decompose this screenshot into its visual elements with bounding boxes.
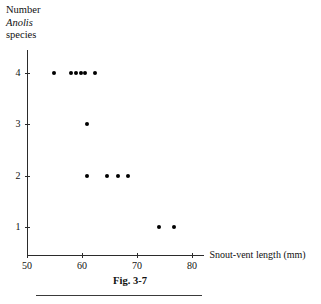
y-axis-tick xyxy=(25,176,30,177)
data-point xyxy=(93,71,97,75)
data-point xyxy=(157,225,161,229)
y-axis-tick-label: 4 xyxy=(7,68,21,78)
y-axis-tick-label: 2 xyxy=(7,171,21,181)
data-point xyxy=(69,71,73,75)
x-axis-line xyxy=(27,255,204,256)
data-point xyxy=(74,71,78,75)
y-axis-tick xyxy=(25,227,30,228)
x-axis-tick xyxy=(82,253,83,258)
data-point xyxy=(172,225,176,229)
figure-root: Number Anolis species 123450607080Snout-… xyxy=(0,0,321,304)
caption-rule xyxy=(36,295,202,296)
data-point xyxy=(52,71,56,75)
data-point xyxy=(126,174,130,178)
x-axis-tick xyxy=(137,253,138,258)
y-axis-line xyxy=(27,50,28,255)
x-axis-tick-label: 60 xyxy=(72,261,92,271)
y-axis-tick xyxy=(25,73,30,74)
y-axis-tick-label: 3 xyxy=(7,119,21,129)
x-axis-title: Snout-vent length (mm) xyxy=(210,249,306,260)
x-axis-tick xyxy=(27,253,28,258)
data-point xyxy=(105,174,109,178)
data-point xyxy=(79,71,83,75)
scatter-plot: 123450607080Snout-vent length (mm) xyxy=(0,0,321,304)
x-axis-tick-label: 80 xyxy=(182,261,202,271)
figure-caption: Fig. 3-7 xyxy=(0,275,260,286)
y-axis-tick-label: 1 xyxy=(7,222,21,232)
data-point xyxy=(85,174,89,178)
data-point xyxy=(116,174,120,178)
data-point xyxy=(83,71,87,75)
x-axis-tick-label: 50 xyxy=(17,261,37,271)
x-axis-tick xyxy=(192,253,193,258)
y-axis-tick xyxy=(25,124,30,125)
data-point xyxy=(85,122,89,126)
x-axis-tick-label: 70 xyxy=(127,261,147,271)
